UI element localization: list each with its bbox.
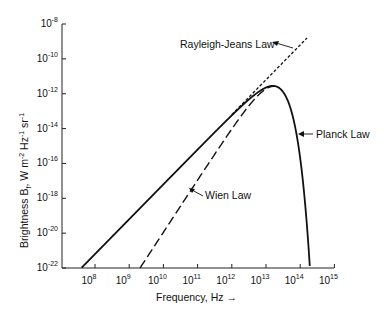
planck-label: Planck Law [316,128,370,140]
wien-arrow [192,190,203,196]
y-tick-label: 10-10 [37,51,58,64]
x-tick-label: 1014 [285,273,304,286]
rj-label: Rayleigh-Jeans Law [180,38,275,50]
y-tick-label: 10-16 [37,155,58,168]
wien-curve [140,86,274,268]
axes [62,24,334,268]
y-tick-label: 10-14 [37,121,58,134]
wien-label: Wien Law [205,189,252,201]
wien-arrowhead-icon [189,188,195,193]
planck-arrowhead-icon [298,131,304,137]
y-tick-label: 10-18 [37,190,58,203]
x-tick-label: 1012 [216,273,235,286]
x-axis-title: Frequency, Hz → [156,291,237,303]
x-tick-label: 109 [116,273,131,286]
curves [82,38,310,268]
x-tick-label: 1010 [148,273,167,286]
x-tick-label: 1011 [182,273,200,286]
x-tick-label: 108 [81,273,96,286]
x-ticks: 108109101010111012101310141015 [81,264,337,286]
y-tick-label: 10-20 [37,225,58,238]
y-tick-label: 10-8 [41,16,58,29]
planck-annotation: Planck Law [298,128,370,140]
y-tick-label: 10-12 [37,86,58,99]
x-tick-label: 1015 [319,273,338,286]
planck-curve [82,86,310,268]
x-tick-label: 1013 [251,273,270,286]
y-tick-label: 10-22 [37,260,58,273]
wien-annotation: Wien Law [189,188,252,201]
rj-arrow [276,43,293,48]
rj-annotation: Rayleigh-Jeans Law [180,38,293,50]
y-axis-title: Brightness Bf, W m-2 Hz-1 sr-1 [18,113,32,248]
blackbody-chart: 10-810-1010-1210-1410-1610-1810-2010-22 … [0,0,388,315]
